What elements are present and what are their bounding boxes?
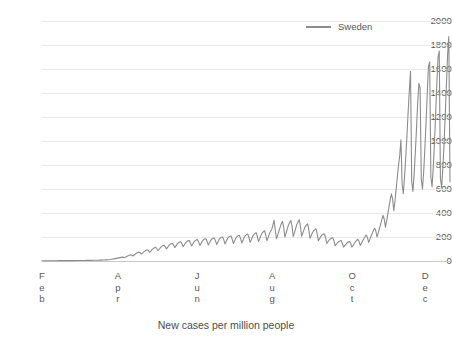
x-axis-tick-jun: Jun	[189, 270, 205, 305]
legend-swatch-sweden	[306, 26, 331, 28]
x-axis-tick-letter: u	[189, 282, 205, 294]
x-axis-tick-letter: r	[110, 293, 126, 305]
x-axis-tick-letter: F	[34, 270, 50, 282]
x-axis-tick-letter: c	[417, 293, 433, 305]
x-axis-tick-letter: O	[344, 270, 360, 282]
x-axis-tick-letter: e	[34, 282, 50, 294]
plot-area	[42, 21, 450, 261]
x-axis-tick-letter: J	[189, 270, 205, 282]
x-axis-tick-dec: Dec	[417, 270, 433, 305]
x-axis-tick-letter: e	[417, 282, 433, 294]
chart-container: 2000180016001400120010008006004002000 Fe…	[0, 0, 452, 340]
x-axis-tick-letter: c	[344, 282, 360, 294]
series-line-sweden	[42, 21, 450, 261]
gridline	[42, 261, 450, 262]
x-axis-tick-letter: p	[110, 282, 126, 294]
x-axis-tick-letter: D	[417, 270, 433, 282]
x-axis-tick-letter: A	[110, 270, 126, 282]
x-axis-tick-apr: Apr	[110, 270, 126, 305]
x-axis-tick-aug: Aug	[264, 270, 280, 305]
x-axis-tick-oct: Oct	[344, 270, 360, 305]
x-axis-tick-letter: A	[264, 270, 280, 282]
chart-legend: Sweden	[306, 21, 372, 32]
x-axis-tick-letter: n	[189, 293, 205, 305]
x-axis-tick-letter: u	[264, 282, 280, 294]
x-axis-tick-letter: b	[34, 293, 50, 305]
x-axis-tick-feb: Feb	[34, 270, 50, 305]
legend-label-sweden: Sweden	[338, 21, 372, 32]
x-axis-tick-letter: g	[264, 293, 280, 305]
x-axis-title: New cases per million people	[0, 319, 452, 331]
x-axis-tick-letter: t	[344, 293, 360, 305]
